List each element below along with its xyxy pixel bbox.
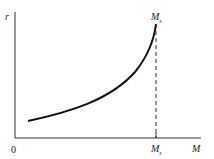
- x-axis-label: M: [192, 144, 200, 154]
- curve: [28, 24, 156, 121]
- origin-label: 0: [11, 145, 16, 155]
- y-axis-label: r: [5, 12, 9, 22]
- x-mark-label: Ms: [151, 144, 162, 156]
- top-mark-label: Ms: [151, 12, 162, 24]
- diagram-canvas: [0, 0, 214, 159]
